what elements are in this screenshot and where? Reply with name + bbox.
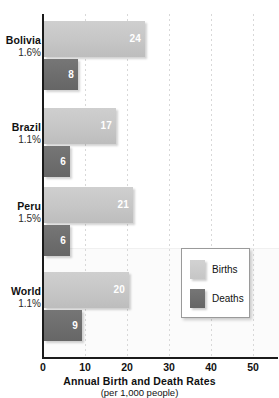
category-name-bolivia: Bolivia — [0, 34, 41, 46]
category-name-brazil: Brazil — [0, 121, 41, 133]
gridline-50 — [253, 14, 254, 356]
category-label-brazil: Brazil 1.1% — [0, 121, 41, 146]
legend-swatch-deaths-icon — [190, 289, 205, 308]
bar-value-births-bolivia: 24 — [129, 34, 141, 44]
bar-deaths-world: 9 — [44, 310, 82, 341]
bar-deaths-bolivia: 8 — [44, 59, 78, 90]
category-rate-bolivia: 1.6% — [0, 46, 41, 59]
category-label-world: World 1.1% — [0, 285, 41, 310]
bar-value-births-world: 20 — [113, 285, 125, 295]
category-name-peru: Peru — [0, 200, 41, 212]
bar-value-births-peru: 21 — [117, 200, 129, 210]
category-rate-peru: 1.5% — [0, 212, 41, 225]
bar-births-bolivia: 24 — [44, 21, 145, 57]
chart-legend: Births Deaths — [181, 248, 250, 318]
category-rate-world: 1.1% — [0, 297, 41, 310]
gridline-30 — [169, 14, 170, 356]
bar-value-births-brazil: 17 — [100, 121, 112, 131]
x-tick-10: 10 — [70, 361, 100, 373]
x-tick-30: 30 — [154, 361, 184, 373]
x-tick-0: 0 — [28, 361, 58, 373]
bar-births-brazil: 17 — [44, 108, 116, 144]
legend-label-deaths: Deaths — [212, 294, 244, 304]
bar-value-deaths-bolivia: 8 — [68, 70, 74, 80]
legend-label-births: Births — [212, 265, 238, 275]
bar-value-deaths-brazil: 6 — [60, 157, 66, 167]
legend-swatch-births-icon — [190, 260, 205, 279]
legend-item-births: Births — [190, 260, 238, 279]
bar-deaths-brazil: 6 — [44, 146, 70, 177]
x-tick-40: 40 — [196, 361, 226, 373]
bar-births-peru: 21 — [44, 187, 133, 223]
x-axis-title: Annual Birth and Death Rates — [0, 375, 279, 387]
category-label-bolivia: Bolivia 1.6% — [0, 34, 41, 59]
category-name-world: World — [0, 285, 41, 297]
category-label-peru: Peru 1.5% — [0, 200, 41, 225]
category-rate-brazil: 1.1% — [0, 133, 41, 146]
bar-value-deaths-world: 9 — [72, 321, 78, 331]
x-tick-50: 50 — [238, 361, 268, 373]
bar-deaths-peru: 6 — [44, 225, 70, 256]
x-axis-subtitle: (per 1,000 people) — [0, 387, 279, 398]
x-axis-line — [42, 357, 278, 359]
bar-births-world: 20 — [44, 272, 129, 308]
legend-item-deaths: Deaths — [190, 289, 244, 308]
bar-value-deaths-peru: 6 — [60, 236, 66, 246]
x-tick-20: 20 — [112, 361, 142, 373]
